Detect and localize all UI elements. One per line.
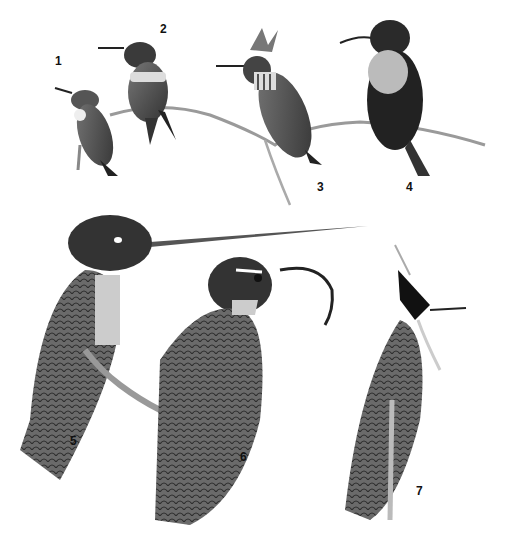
bird-3 <box>216 28 322 165</box>
figure-label-2: 2 <box>160 22 167 36</box>
illustration-drawing <box>0 0 505 552</box>
bird-7 <box>345 245 466 520</box>
hummingbird-illustration-plate: 1 2 3 4 5 6 7 <box>0 0 505 552</box>
figure-label-7: 7 <box>416 484 423 498</box>
figure-label-4: 4 <box>406 180 413 194</box>
bird-4 <box>340 20 430 176</box>
figure-label-1: 1 <box>55 54 62 68</box>
figure-label-5: 5 <box>70 434 77 448</box>
figure-label-6: 6 <box>240 450 247 464</box>
figure-label-3: 3 <box>317 180 324 194</box>
bird-1 <box>55 88 120 176</box>
bird-6 <box>155 257 332 525</box>
